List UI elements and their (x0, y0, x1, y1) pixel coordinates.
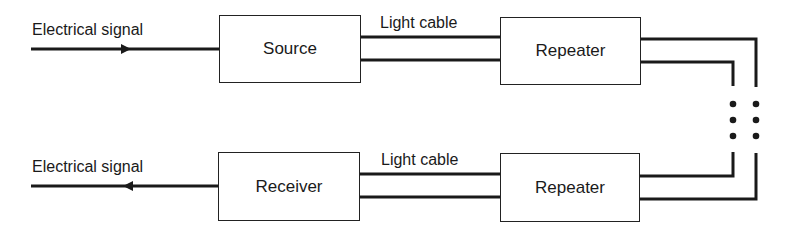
source-block: Source (219, 15, 361, 83)
dot-icon (730, 133, 737, 140)
input-signal-label: Electrical signal (32, 21, 143, 39)
dot-icon (730, 117, 737, 124)
top-repeater-label: Repeater (536, 41, 606, 61)
receiver-label: Receiver (255, 177, 322, 197)
right-arrow-icon (121, 44, 131, 54)
receiver-block: Receiver (218, 152, 360, 221)
bottom-repeater-block: Repeater (500, 153, 640, 222)
output-signal-label: Electrical signal (32, 158, 143, 176)
bottom-cable-label: Light cable (381, 151, 458, 169)
top-repeater-block: Repeater (500, 17, 641, 85)
dot-icon (753, 117, 760, 124)
bottom-repeater-label: Repeater (535, 178, 605, 198)
dot-icon (753, 133, 760, 140)
top-right-inner-line (640, 62, 733, 86)
bottom-right-inner-line (640, 152, 733, 176)
dot-icon (730, 101, 737, 108)
dot-icon (753, 101, 760, 108)
source-label: Source (263, 39, 317, 59)
top-cable-label: Light cable (380, 14, 457, 32)
left-arrow-icon (123, 181, 133, 191)
